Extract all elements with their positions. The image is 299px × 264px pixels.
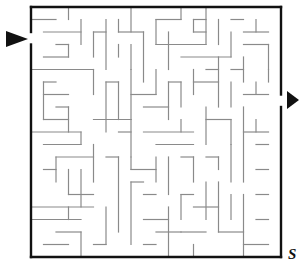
- maze-walls: [31, 7, 269, 257]
- start-arrow-icon: [6, 31, 28, 47]
- end-arrow-icon: [287, 91, 299, 109]
- corner-letter: S: [288, 246, 296, 263]
- maze-board: [0, 0, 299, 264]
